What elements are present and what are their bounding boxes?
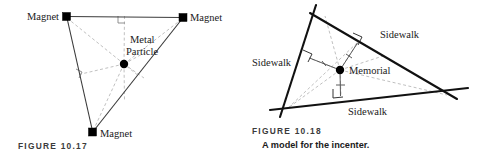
triangle-side-top xyxy=(67,17,182,18)
figure-10-18-caption-title: FIGURE 10.18 xyxy=(252,126,322,136)
magnet-label-top-left: Magnet xyxy=(27,11,59,22)
figure-page: Magnet Magnet Magnet Metal Particle xyxy=(0,0,477,163)
magnet-node-top-left xyxy=(63,13,71,21)
perp-bisector-top-extension xyxy=(124,64,125,100)
sidewalk-label-top-right: Sidewalk xyxy=(380,29,420,40)
sidewalk-lines-group xyxy=(270,5,468,117)
metal-particle-label-line2: Particle xyxy=(126,46,158,57)
perpendicular-bisectors-group xyxy=(67,16,182,131)
figure-10-17-drawing: Magnet Magnet Magnet Metal Particle xyxy=(0,0,240,140)
magnet-label-top-right: Magnet xyxy=(190,12,222,23)
construction-ray-diagonal xyxy=(288,42,358,108)
memorial-dot xyxy=(336,66,344,74)
angle-bisectors-group xyxy=(288,16,447,108)
right-angle-mark-bottom-side xyxy=(333,89,343,98)
metal-particle-label-line1: Metal xyxy=(130,34,155,45)
figure-10-18: Sidewalk Sidewalk Sidewalk Memorial xyxy=(240,0,477,163)
sidewalk-line-top-right xyxy=(310,13,457,99)
figure-10-18-drawing: Sidewalk Sidewalk Sidewalk Memorial xyxy=(240,0,477,122)
metal-particle-dot xyxy=(120,60,128,68)
magnet-node-bottom xyxy=(89,128,97,136)
memorial-label: Memorial xyxy=(349,65,390,76)
equal-tick-topright xyxy=(346,54,352,58)
perp-bisector-left xyxy=(79,64,124,75)
figure-10-17-caption-title: FIGURE 10.17 xyxy=(18,141,88,151)
figure-10-18-caption-subtitle: A model for the incenter. xyxy=(262,140,369,150)
magnet-label-bottom: Magnet xyxy=(100,128,132,139)
sidewalk-label-bottom: Sidewalk xyxy=(348,106,388,117)
magnet-node-top-right xyxy=(179,14,187,22)
right-angle-mark-left-side xyxy=(303,50,312,62)
figure-10-17: Magnet Magnet Magnet Metal Particle xyxy=(0,0,240,163)
sidewalk-label-left: Sidewalk xyxy=(252,57,292,68)
